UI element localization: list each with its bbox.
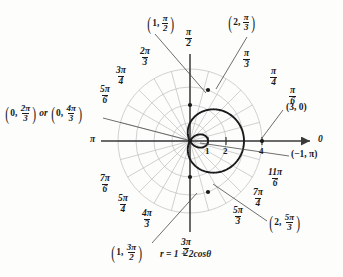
callout-leader-lines — [103, 34, 289, 243]
angle-label-pi-over-3: π3 — [243, 49, 250, 69]
radial-tick-label-4: 4 — [259, 147, 264, 156]
angle-label-pi-over-4: π4 — [270, 67, 277, 87]
equation-label: r = 1 + 2cosθ — [160, 250, 211, 260]
polar-axes — [101, 54, 310, 232]
polar-graph-figure: π6 π4 π3 2π3 3π4 5π6 7π6 5π4 4π3 5π3 7π4… — [0, 0, 343, 277]
polar-plot-canvas — [0, 0, 343, 277]
angle-label-2pi-over-3: 2π3 — [139, 47, 151, 67]
angle-label-5pi-over-6: 5π6 — [99, 85, 111, 105]
angle-label-7pi-over-4: 7π4 — [252, 188, 264, 208]
point-label-3-0: (3, 0) — [286, 103, 307, 113]
axis-label-pi: π — [90, 135, 95, 145]
axis-label-pi-over-2: π2 — [185, 28, 192, 48]
point-label-neg1-pi: (−1, π) — [291, 150, 317, 160]
point-label-0-2pi-over-3-or-0-4pi-over-3: (0, 2π3) or (0, 4π3) — [4, 104, 83, 123]
radial-tick-label-1: 1 — [205, 147, 210, 156]
point-label-1-pi-over-2: (1, π2) — [146, 14, 175, 33]
angle-label-5pi-over-4: 5π4 — [117, 194, 129, 214]
axis-label-zero: 0 — [318, 135, 323, 145]
angle-label-5pi-over-3: 5π3 — [232, 206, 244, 226]
angle-label-7pi-over-6: 7π6 — [99, 174, 111, 194]
angle-label-3pi-over-4: 3π4 — [115, 66, 127, 86]
point-label-2-5pi-over-3: (2, 5π3) — [268, 213, 301, 232]
point-label-2-pi-over-3: (2, π3) — [227, 13, 256, 32]
angle-label-4pi-over-3: 4π3 — [141, 209, 153, 229]
angle-label-11pi-over-6: 11π6 — [267, 168, 283, 188]
radial-tick-label-2: 2 — [223, 147, 228, 156]
point-label-1-3pi-over-2: (1, 3π2) — [110, 243, 143, 262]
